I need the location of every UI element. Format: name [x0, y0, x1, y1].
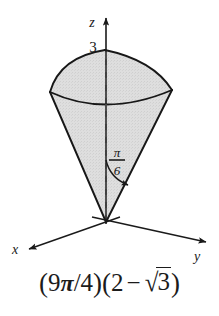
formula-minus: − [124, 269, 144, 296]
angle-numerator-pi: π [114, 145, 121, 160]
x-axis [29, 217, 120, 249]
formula-sqrt-group: √3 [144, 268, 171, 297]
formula-pi: π [61, 270, 74, 296]
formula-open-paren-2: ( [102, 268, 111, 298]
solid-body [50, 50, 172, 222]
x-axis-label: x [11, 242, 19, 257]
formula-nine: 9 [48, 269, 61, 296]
formula-close-paren-1: ) [93, 268, 102, 298]
y-axis [92, 217, 206, 242]
z-tick-label-3: 3 [89, 39, 97, 55]
angle-denominator-6: 6 [114, 163, 121, 178]
cone-surface [50, 90, 172, 222]
formula-slash-four: /4 [74, 269, 93, 296]
formula-open-paren-1: ( [39, 268, 48, 298]
figure-container: z x y 3 π 6 (9π/4)(2−√3) [0, 0, 219, 316]
formula-two: 2 [111, 269, 124, 296]
y-axis-label: y [192, 249, 201, 264]
formula-close-paren-2: ) [171, 268, 180, 298]
result-formula: (9π/4)(2−√3) [0, 268, 219, 299]
z-axis-label: z [88, 15, 95, 30]
formula-radicand: 3 [156, 267, 171, 296]
